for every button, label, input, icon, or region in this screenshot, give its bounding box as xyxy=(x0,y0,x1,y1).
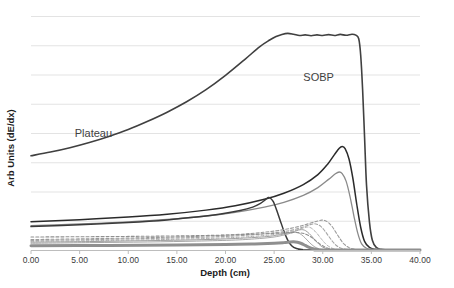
x-tick-label: 5.00 xyxy=(71,255,88,265)
x-tick-label: 20.00 xyxy=(215,255,237,265)
x-tick-label: 10.00 xyxy=(118,255,140,265)
x-tick-label: 15.00 xyxy=(166,255,188,265)
x-tick-labels: 0.005.0010.0015.0020.0025.0030.0035.0040… xyxy=(23,251,431,266)
curve-sobp-composite xyxy=(31,33,420,250)
y-axis-title: Arb Units (dE/dx) xyxy=(5,109,16,187)
sobp-annotation: SOBP xyxy=(303,71,334,83)
chart-annotations: SOBPPlateau xyxy=(75,71,334,139)
x-tick-label: 40.00 xyxy=(409,255,431,265)
x-tick-label: 0.00 xyxy=(23,255,40,265)
plateau-annotation: Plateau xyxy=(75,127,112,139)
x-tick-label: 25.00 xyxy=(263,255,285,265)
x-axis-title: Depth (cm) xyxy=(200,267,250,278)
gridlines xyxy=(31,17,420,222)
curve-series-group xyxy=(31,33,420,250)
chart-container: 0.005.0010.0015.0020.0025.0030.0035.0040… xyxy=(0,0,454,288)
depth-dose-chart: 0.005.0010.0015.0020.0025.0030.0035.0040… xyxy=(0,0,454,288)
x-tick-label: 30.00 xyxy=(312,255,334,265)
curve-bragg-peak-1-highest-weight-deepest xyxy=(31,146,420,250)
x-tick-label: 35.00 xyxy=(361,255,383,265)
